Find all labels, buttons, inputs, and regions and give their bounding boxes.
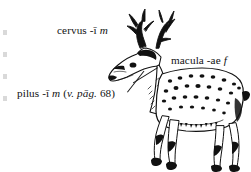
label-pilus-page-number: 68) [97, 87, 115, 99]
antler-left [127, 9, 154, 48]
label-cervus: cervus -ī m [57, 24, 108, 36]
illustration-page: cervus -ī m macula -ae f pilus -ī m (v. … [0, 0, 251, 172]
page-edge-artifact [3, 52, 7, 57]
label-macula: macula -ae f [171, 54, 227, 66]
label-pilus: pilus -ī m (v. pāg. 68) [17, 87, 115, 99]
deer-illustration [104, 8, 251, 172]
label-pilus-crossref: v. pāg. [67, 87, 97, 99]
label-macula-gender: f [224, 54, 227, 66]
label-cervus-gender: m [100, 24, 108, 36]
deer-hooves [151, 158, 240, 172]
label-pilus-lemma: pilus -ī [17, 87, 52, 99]
page-edge-artifact [3, 74, 7, 79]
label-macula-lemma: macula -ae [171, 54, 224, 66]
label-pilus-paren-open: ( [60, 87, 67, 99]
antler-right [156, 10, 175, 48]
page-edge-artifact [3, 96, 7, 101]
deer-body [156, 68, 243, 131]
deer-head [109, 48, 161, 81]
label-cervus-lemma: cervus -ī [57, 24, 100, 36]
page-edge-artifact [3, 30, 7, 35]
